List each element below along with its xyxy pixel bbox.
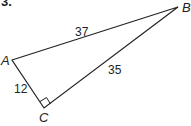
vertex-label-c: C xyxy=(39,110,48,125)
vertex-label-b: B xyxy=(182,0,191,15)
right-angle-marker xyxy=(40,98,51,105)
side-length-ab: 37 xyxy=(75,25,88,39)
side-length-ac: 12 xyxy=(14,82,27,96)
right-triangle xyxy=(0,0,191,126)
vertex-label-a: A xyxy=(1,53,10,68)
side-length-bc: 35 xyxy=(108,63,121,77)
triangle-diagram: 3. A B C 37 35 12 xyxy=(0,0,191,126)
